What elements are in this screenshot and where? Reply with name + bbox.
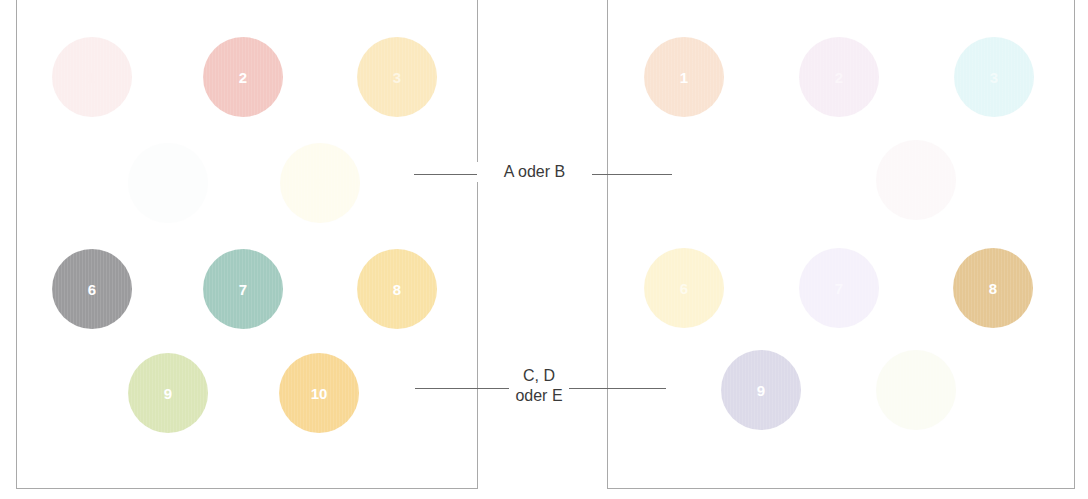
right-circle-4: 4	[876, 140, 956, 220]
circle-number: 10	[908, 382, 925, 399]
circle-number: 9	[164, 385, 172, 402]
left-circle-10: 10	[279, 353, 359, 433]
right-circle-2: 2	[799, 37, 879, 117]
circle-number: 8	[393, 281, 401, 298]
circle-number: 7	[835, 280, 843, 297]
right-circle-3: 3	[954, 37, 1034, 117]
connector-line	[592, 174, 672, 175]
label-bottom-line2: oder E	[509, 386, 569, 406]
circle-number: 10	[311, 385, 328, 402]
left-circle-6: 6	[52, 249, 132, 329]
connector-line	[415, 388, 509, 389]
circle-number: 4	[912, 172, 920, 189]
label-top-text: A oder B	[504, 163, 565, 180]
circle-number: 1	[88, 69, 96, 86]
left-circle-3: 3	[357, 37, 437, 117]
circle-number: 3	[393, 69, 401, 86]
label-c-d-oder-e: C, D oder E	[509, 366, 569, 406]
connector-line	[414, 174, 477, 175]
circle-number: 2	[239, 69, 247, 86]
left-circle-9: 9	[128, 353, 208, 433]
circle-number: 9	[757, 382, 765, 399]
left-circle-5: 5	[280, 143, 360, 223]
circle-number: 3	[990, 69, 998, 86]
circle-number: 5	[316, 175, 324, 192]
right-circle-8: 8	[953, 248, 1033, 328]
left-circle-4: 4	[128, 143, 208, 223]
right-circle-9: 9	[721, 350, 801, 430]
left-circle-1: 1	[52, 37, 132, 117]
left-circle-7: 7	[203, 249, 283, 329]
connector-line	[569, 388, 666, 389]
right-circle-10: 10	[876, 350, 956, 430]
right-circle-1: 1	[644, 37, 724, 117]
circle-number: 6	[88, 281, 96, 298]
circle-number: 7	[239, 281, 247, 298]
circle-number: 8	[989, 280, 997, 297]
left-circle-8: 8	[357, 249, 437, 329]
left-circle-2: 2	[203, 37, 283, 117]
right-circle-7: 7	[799, 248, 879, 328]
circle-number: 1	[680, 69, 688, 86]
circle-number: 6	[680, 280, 688, 297]
label-bottom-line1: C, D	[509, 366, 569, 386]
circle-number: 4	[164, 175, 172, 192]
circle-number: 2	[835, 69, 843, 86]
label-a-oder-b: A oder B	[477, 162, 592, 182]
right-circle-6: 6	[644, 248, 724, 328]
